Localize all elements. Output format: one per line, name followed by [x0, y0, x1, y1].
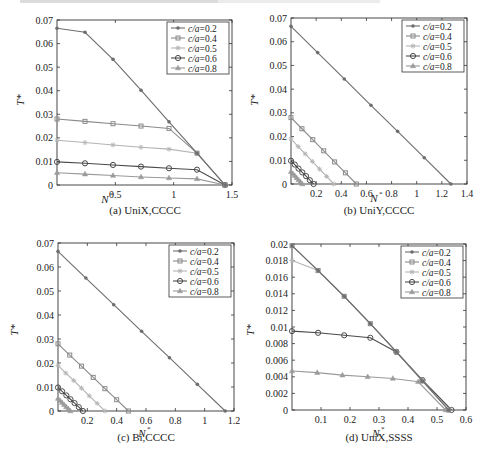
y-tick-label: 0.03 — [36, 109, 54, 120]
y-tick-label: 0 — [49, 406, 54, 417]
legend-entry: c/a=0.2 — [190, 247, 219, 257]
y-tick-label: 0.01 — [270, 155, 288, 166]
y-tick-label: 0.01 — [36, 156, 54, 167]
x-axis-label: N — [369, 192, 378, 204]
y-tick-label: 0.004 — [266, 371, 289, 382]
chart-panel-b: 00.010.020.030.040.050.060.070.20.40.60.… — [248, 13, 473, 205]
y-tick-label: 0 — [282, 179, 287, 190]
x-tick-label: 0.4 — [402, 414, 415, 425]
y-axis-label: T* — [248, 94, 260, 106]
x-tick-label: 1.4 — [461, 188, 474, 199]
x-tick-label: 0.4 — [110, 415, 123, 426]
y-tick-label: 0.06 — [270, 36, 288, 47]
legend-entry: c/a=0.8 — [422, 288, 451, 298]
chart-panel-c: 00.010.020.030.040.050.060.070.20.40.60.… — [8, 238, 240, 440]
x-tick-label: 0.3 — [373, 414, 386, 425]
y-tick-label: 0.05 — [36, 62, 54, 73]
y-tick-label: 0.07 — [270, 13, 288, 24]
x-tick-label: 1 — [171, 189, 176, 200]
legend-entry: c/a=0.8 — [188, 64, 217, 74]
y-tick-label: 0.006 — [266, 355, 289, 366]
x-tick-label: 0.2 — [310, 188, 323, 199]
x-tick-label: 1.2 — [228, 415, 241, 426]
legend: c/a=0.2c/a=0.4c/a=0.5c/a=0.6c/a=0.8 — [167, 22, 229, 74]
series-line — [292, 331, 452, 410]
series-line — [291, 161, 314, 184]
y-tick-label: 0.04 — [270, 84, 288, 95]
x-tick-label: 0.8 — [169, 415, 182, 426]
legend-entry: c/a=0.6 — [190, 277, 219, 287]
x-tick-label: 1.2 — [436, 188, 449, 199]
x-tick-label: 0.4 — [335, 188, 348, 199]
caption-a: (a) UniX,CCCC — [45, 204, 245, 216]
legend-entry: c/a=0.5 — [188, 44, 217, 54]
x-tick-label: 1 — [414, 188, 419, 199]
legend: c/a=0.2c/a=0.4c/a=0.5c/a=0.6c/a=0.8 — [402, 20, 464, 72]
y-tick-label: 0.016 — [266, 272, 289, 283]
x-axis-label-sup: * — [379, 190, 383, 198]
x-tick-label: 1 — [202, 415, 207, 426]
y-tick-label: 0.018 — [266, 255, 289, 266]
x-tick-label: 0.2 — [81, 415, 94, 426]
caption-c: (c) Bi,CCCC — [46, 431, 246, 443]
x-tick-label: 0.8 — [385, 188, 398, 199]
y-tick-label: 0.008 — [266, 338, 289, 349]
y-tick-label: 0.02 — [270, 131, 288, 142]
y-tick-label: 0.05 — [37, 286, 55, 297]
legend-entry: c/a=0.2 — [188, 24, 217, 34]
x-tick-label: 1.5 — [226, 189, 239, 200]
legend-entry: c/a=0.6 — [188, 54, 217, 64]
legend-entry: c/a=0.8 — [190, 287, 219, 297]
x-tick-label: 0.5 — [431, 414, 444, 425]
legend-entry: c/a=0.2 — [422, 248, 451, 258]
y-tick-label: 0.014 — [266, 288, 289, 299]
y-tick-label: 0.03 — [270, 107, 288, 118]
legend: c/a=0.2c/a=0.4c/a=0.5c/a=0.6c/a=0.8 — [169, 245, 231, 297]
y-tick-label: 0.012 — [266, 305, 289, 316]
legend-entry: c/a=0.4 — [423, 32, 452, 42]
y-tick-label: 0.01 — [271, 322, 289, 333]
x-tick-label: 0.1 — [315, 414, 328, 425]
y-tick-label: 0.07 — [37, 238, 55, 249]
legend-entry: c/a=0.4 — [190, 257, 219, 267]
chart-panel-d: 00.0020.0040.0060.0080.010.0120.0140.016… — [244, 239, 472, 440]
figure-canvas: 00.010.020.030.040.050.060.070.511.5N*T*… — [0, 0, 487, 475]
legend-entry: c/a=0.5 — [423, 42, 452, 52]
y-tick-label: 0.02 — [37, 358, 55, 369]
series-line — [58, 387, 83, 411]
y-tick-label: 0.05 — [270, 60, 288, 71]
y-tick-label: 0 — [48, 180, 53, 191]
y-tick-label: 0 — [283, 405, 288, 416]
series-line — [57, 162, 225, 185]
legend: c/a=0.2c/a=0.4c/a=0.5c/a=0.6c/a=0.8 — [401, 246, 463, 298]
legend-entry: c/a=0.5 — [422, 268, 451, 278]
y-tick-label: 0.02 — [36, 132, 54, 143]
y-tick-label: 0.07 — [36, 15, 54, 26]
x-axis-label-sup: * — [110, 191, 114, 199]
y-axis-label: T* — [8, 324, 20, 336]
legend-entry: c/a=0.2 — [423, 22, 452, 32]
legend-entry: c/a=0.4 — [422, 258, 451, 268]
caption-d: (d) UniX,SSSS — [279, 431, 479, 443]
legend-entry: c/a=0.6 — [423, 52, 452, 62]
legend-entry: c/a=0.4 — [188, 34, 217, 44]
y-tick-label: 0.06 — [37, 262, 55, 273]
y-tick-label: 0.02 — [271, 239, 289, 250]
chart-panel-a: 00.010.020.030.040.050.060.070.511.5N*T*… — [14, 15, 238, 206]
y-tick-label: 0.01 — [37, 382, 55, 393]
y-tick-label: 0.04 — [36, 85, 54, 96]
y-tick-label: 0.03 — [37, 334, 55, 345]
legend-entry: c/a=0.8 — [423, 62, 452, 72]
legend-entry: c/a=0.5 — [190, 267, 219, 277]
x-tick-label: 0.6 — [460, 414, 473, 425]
y-axis-label: T* — [244, 324, 256, 336]
y-tick-label: 0.002 — [266, 388, 289, 399]
y-axis-label: T* — [14, 94, 26, 106]
y-tick-label: 0.06 — [36, 38, 54, 49]
x-tick-label: 0.2 — [344, 414, 357, 425]
caption-b: (b) UniY,CCCC — [279, 204, 479, 216]
legend-entry: c/a=0.6 — [422, 278, 451, 288]
y-tick-label: 0.04 — [37, 310, 55, 321]
